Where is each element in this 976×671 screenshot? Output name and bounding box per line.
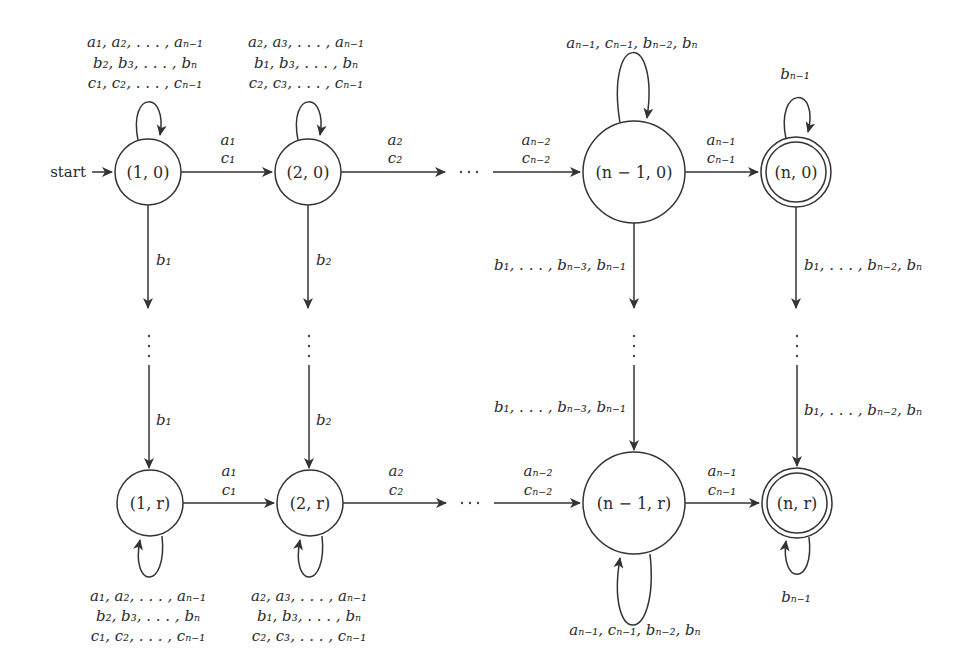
state-n-1-r: (n − 1, r): [597, 494, 671, 513]
loop-label-n-r: bₙ₋₁: [781, 587, 811, 607]
edge-label-rowr-2-bottom: c₂: [389, 480, 403, 500]
state-2-0: (2, 0): [286, 163, 329, 182]
loop-label-1-0-line2: b₂, b₃, . . . , bₙ: [93, 53, 197, 73]
state-n-1-0: (n − 1, 0): [596, 163, 673, 182]
loop-label-1-r-line2: b₂, b₃, . . . , bₙ: [96, 606, 200, 626]
edge-label-rowr-4-bottom: cₙ₋₁: [708, 480, 736, 500]
edge-label-rowr-1-top: a₁: [222, 461, 237, 481]
edge-label-rowr-4-top: aₙ₋₁: [708, 461, 737, 481]
loop-label-2-0-line1: a₂, a₃, . . . , aₙ₋₁: [248, 32, 364, 52]
automaton-diagram: start (1, 0) (2, 0) (n − 1, 0) (n, 0) (1…: [0, 0, 976, 671]
loop-n-1-r: [617, 554, 651, 625]
edge-label-coln1-lower: b₁, . . . , bₙ₋₃, bₙ₋₁: [494, 397, 626, 417]
loop-label-n-0: bₙ₋₁: [780, 64, 810, 84]
edge-label-row0-2-top: a₂: [388, 130, 403, 150]
loop-n-0: [784, 98, 810, 139]
loop-label-2-0-line2: b₁, b₃, . . . , bₙ: [254, 53, 358, 73]
edge-label-row0-3-bottom: cₙ₋₂: [522, 148, 550, 168]
edge-label-rowr-3-bottom: cₙ₋₂: [524, 480, 552, 500]
edge-label-col1-upper: b₁: [156, 250, 172, 270]
loop-label-n-1-r: aₙ₋₁, cₙ₋₁, bₙ₋₂, bₙ: [569, 620, 700, 640]
loop-label-2-r-line1: a₂, a₃, . . . , aₙ₋₁: [251, 586, 367, 606]
loop-label-1-r-line3: c₁, c₂, . . . , cₙ₋₁: [91, 626, 205, 646]
loop-n-r: [785, 537, 809, 574]
state-2-r: (2, r): [290, 494, 330, 513]
edge-label-row0-3-top: aₙ₋₂: [522, 130, 551, 150]
edge-label-col2-upper: b₂: [316, 250, 332, 270]
edge-label-row0-4-top: aₙ₋₁: [707, 130, 736, 150]
diagram-graphics: [0, 0, 976, 671]
loop-label-n-1-0: aₙ₋₁, cₙ₋₁, bₙ₋₂, bₙ: [566, 33, 697, 53]
edge-label-rowr-3-top: aₙ₋₂: [524, 461, 553, 481]
loop-2-0: [296, 102, 321, 140]
edge-label-coln1-upper: b₁, . . . , bₙ₋₃, bₙ₋₁: [494, 255, 626, 275]
edge-label-coln-upper: b₁, . . . , bₙ₋₂, bₙ: [804, 255, 922, 275]
edge-label-rowr-2-top: a₂: [389, 461, 404, 481]
start-label: start: [50, 162, 86, 182]
loop-1-r: [138, 536, 162, 577]
edge-label-col1-lower: b₁: [156, 410, 172, 430]
loop-label-2-r-line2: b₁, b₃, . . . , bₙ: [257, 606, 361, 626]
edge-label-row0-4-bottom: cₙ₋₁: [707, 148, 735, 168]
edge-label-row0-1-top: a₁: [221, 130, 236, 150]
loop-n-1-0: [617, 53, 649, 123]
edge-label-rowr-1-bottom: c₁: [222, 480, 236, 500]
state-n-r: (n, r): [777, 494, 818, 513]
state-n-0: (n, 0): [774, 163, 817, 182]
state-1-0: (1, 0): [126, 163, 169, 182]
state-1-r: (1, r): [130, 494, 170, 513]
edge-label-row0-1-bottom: c₁: [221, 148, 235, 168]
edge-label-coln-lower: b₁, . . . , bₙ₋₂, bₙ: [804, 400, 922, 420]
edge-label-row0-2-bottom: c₂: [388, 148, 402, 168]
loop-label-1-0-line3: c₁, c₂, . . . , cₙ₋₁: [88, 73, 202, 93]
loop-label-1-r-line1: a₁, a₂, . . . , aₙ₋₁: [90, 586, 206, 606]
edge-label-col2-lower: b₂: [316, 410, 332, 430]
loop-label-2-r-line3: c₂, c₃, . . . , cₙ₋₁: [252, 626, 366, 646]
loop-1-0: [136, 102, 161, 140]
loop-label-2-0-line3: c₂, c₃, . . . , cₙ₋₁: [249, 73, 363, 93]
loop-label-1-0-line1: a₁, a₂, . . . , aₙ₋₁: [87, 32, 203, 52]
loop-2-r: [298, 536, 322, 577]
